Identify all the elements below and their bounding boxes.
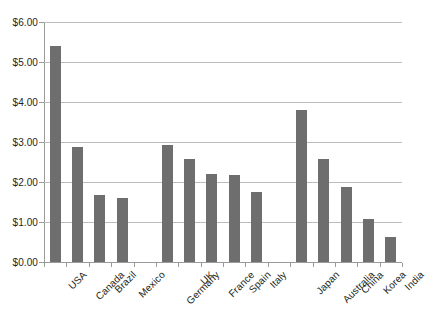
gridline: [44, 62, 402, 63]
bar: [162, 145, 173, 262]
y-axis-tick-label: $0.00: [12, 257, 38, 268]
x-axis-tick-label: Italy: [267, 269, 288, 290]
x-axis-tick-mark: [313, 263, 314, 267]
x-axis-tick-label-text: India: [402, 269, 425, 292]
bar: [385, 237, 396, 262]
y-axis-tick-label: $2.00: [12, 177, 38, 188]
x-axis-tick-label-text: France: [226, 269, 256, 299]
y-axis-tick-label: $6.00: [12, 17, 38, 28]
gridline: [44, 22, 402, 23]
x-axis-tick-label: Spain: [247, 269, 273, 295]
y-axis-labels: $0.00$1.00$2.00$3.00$4.00$5.00$6.00: [0, 0, 38, 330]
bar: [94, 195, 105, 262]
x-axis-tick-label-text: USA: [66, 269, 89, 292]
bar: [72, 147, 83, 262]
x-axis-tick-label-text: Brazil: [112, 269, 138, 295]
x-axis-tick-mark: [402, 263, 403, 267]
x-axis-tick-label: Japan: [314, 269, 341, 296]
x-axis-tick-label: Germany: [184, 269, 221, 306]
x-axis-tick-mark: [380, 263, 381, 267]
x-axis-tick-mark: [290, 263, 291, 267]
x-axis-tick-label: USA: [66, 269, 89, 292]
bar: [363, 219, 374, 262]
x-axis-tick-label-text: Italy: [267, 269, 288, 290]
bar: [184, 159, 195, 262]
x-axis-tick-label-text: Korea: [381, 269, 408, 296]
x-axis-tick-mark: [89, 263, 90, 267]
x-axis-tick-mark: [44, 263, 45, 267]
bar: [206, 174, 217, 262]
x-axis-tick-mark: [156, 263, 157, 267]
x-axis-tick-mark: [201, 263, 202, 267]
y-axis-tick-label: $1.00: [12, 217, 38, 228]
x-axis-tick-label-text: Australia: [340, 269, 376, 305]
gridline: [44, 182, 402, 183]
x-axis-tick-label: France: [226, 269, 256, 299]
y-axis-tick-label: $5.00: [12, 57, 38, 68]
x-axis-tick-label-text: Japan: [314, 269, 341, 296]
x-axis-tick-label: Korea: [381, 269, 408, 296]
x-axis-tick-mark: [66, 263, 67, 267]
gridline: [44, 102, 402, 103]
x-axis-tick-mark: [178, 263, 179, 267]
bar: [251, 192, 262, 262]
x-axis-tick-label-text: Germany: [184, 269, 221, 306]
x-axis-tick-mark: [357, 263, 358, 267]
x-axis-tick-label: UK: [199, 269, 217, 287]
bar: [296, 110, 307, 262]
x-axis-tick-mark: [245, 263, 246, 267]
bar: [318, 159, 329, 262]
x-axis-tick-label-text: Spain: [247, 269, 273, 295]
x-axis-tick-mark: [335, 263, 336, 267]
bar: [341, 187, 352, 262]
x-axis-tick-mark: [111, 263, 112, 267]
gridline: [44, 142, 402, 143]
x-axis-tick-label-text: Canada: [93, 269, 126, 302]
x-axis-tick-label-text: UK: [199, 269, 217, 287]
x-axis-tick-label: Mexico: [137, 269, 168, 300]
x-axis-tick-mark: [268, 263, 269, 267]
bar: [229, 175, 240, 262]
bar: [117, 198, 128, 262]
bar: [50, 46, 61, 262]
plot-area: [44, 22, 402, 262]
x-axis-tick-label-text: China: [359, 269, 386, 296]
x-axis-tick-label: Canada: [93, 269, 126, 302]
y-axis-tick-label: $4.00: [12, 97, 38, 108]
x-axis-tick-mark: [134, 263, 135, 267]
y-axis-tick-label: $3.00: [12, 137, 38, 148]
x-axis-tick-label: India: [402, 269, 425, 292]
x-axis-tick-label: China: [359, 269, 386, 296]
x-axis-tick-mark: [223, 263, 224, 267]
x-axis-tick-label: Australia: [340, 269, 376, 305]
x-axis-tick-label-text: Mexico: [137, 269, 168, 300]
x-axis-tick-label: Brazil: [112, 269, 138, 295]
